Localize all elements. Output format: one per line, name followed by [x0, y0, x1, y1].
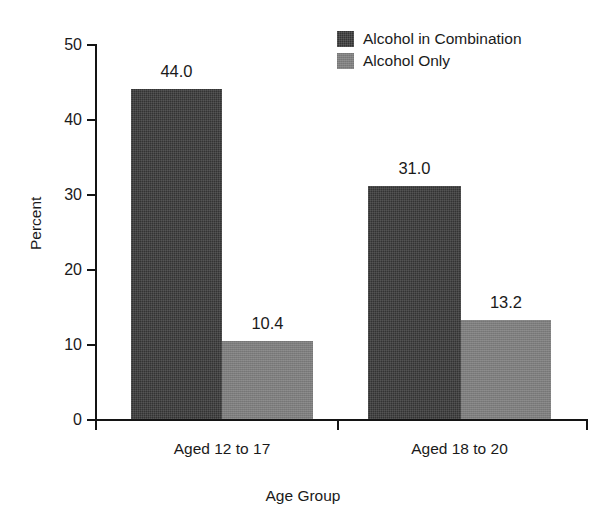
x-axis-category-label-aged-12-to-17: Aged 12 to 17: [131, 440, 313, 458]
x-axis-line: [95, 419, 588, 421]
bar-chart: Alcohol in Combination Alcohol Only 50 4…: [0, 0, 606, 531]
x-axis-tick-middle: [337, 421, 339, 430]
x-axis-category-label-aged-18-to-20: Aged 18 to 20: [368, 440, 551, 458]
bar-value-aged-12-to-17-alcohol-only: 10.4: [222, 314, 313, 332]
legend-label-alcohol-in-combination: Alcohol in Combination: [363, 30, 522, 47]
chart-legend: Alcohol in Combination Alcohol Only: [337, 28, 599, 72]
x-axis-title: Age Group: [0, 487, 606, 505]
legend-swatch-icon-alcohol-in-combination: [337, 31, 354, 47]
x-axis-tick-right: [586, 421, 588, 430]
y-axis-tick-10: [87, 344, 96, 346]
y-axis-line: [95, 44, 97, 421]
y-axis-label-0: 0: [46, 412, 82, 428]
legend-label-alcohol-only: Alcohol Only: [363, 52, 450, 69]
bar-aged-12-to-17-alcohol-only: [222, 341, 313, 419]
bar-value-aged-18-to-20-alcohol-only: 13.2: [461, 293, 551, 311]
y-axis-tick-20: [87, 269, 96, 271]
y-axis-label-40: 40: [46, 112, 82, 128]
y-axis-tick-50: [87, 44, 96, 46]
bar-aged-18-to-20-alcohol-in-combination: [368, 186, 461, 419]
bar-aged-18-to-20-alcohol-only: [461, 320, 551, 419]
legend-item-alcohol-only: Alcohol Only: [337, 50, 599, 71]
bar-value-aged-18-to-20-alcohol-in-combination: 31.0: [368, 159, 461, 177]
y-axis-label-50: 50: [46, 37, 82, 53]
legend-swatch-icon-alcohol-only: [337, 53, 354, 69]
y-axis-label-20: 20: [46, 262, 82, 278]
bar-aged-12-to-17-alcohol-in-combination: [131, 89, 222, 419]
y-axis-label-10: 10: [46, 337, 82, 353]
y-axis-tick-30: [87, 194, 96, 196]
y-axis-title: Percent: [27, 232, 45, 250]
y-axis-tick-40: [87, 119, 96, 121]
legend-item-alcohol-in-combination: Alcohol in Combination: [337, 28, 599, 49]
bar-value-aged-12-to-17-alcohol-in-combination: 44.0: [131, 62, 222, 80]
x-axis-tick-left: [95, 421, 97, 430]
y-axis-label-30: 30: [46, 187, 82, 203]
